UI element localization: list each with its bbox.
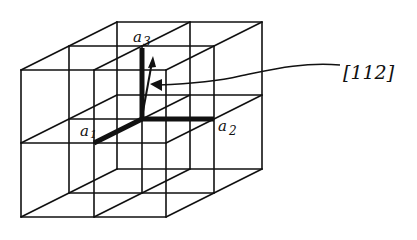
vector-a1 xyxy=(94,119,142,143)
leader-line xyxy=(150,64,340,91)
lattice-diagram: a3 a2 a1 [112] xyxy=(0,0,417,240)
label-a3: a3 xyxy=(133,28,151,49)
label-direction-112: [112] xyxy=(343,61,395,83)
label-a2: a2 xyxy=(218,117,237,138)
